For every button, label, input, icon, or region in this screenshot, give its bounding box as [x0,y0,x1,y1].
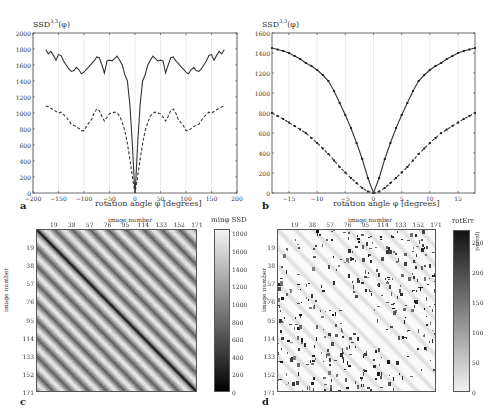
y-tick-label: 133 [264,352,275,359]
colorbar-tick-label: 1000 [232,300,247,307]
x-tick-label: −100 [76,195,92,202]
panel-c-heatmap [36,229,197,392]
x-tick-label: −15 [283,195,296,202]
y-tick-label: 133 [23,352,34,359]
panel-a-plot-area [33,33,237,193]
panel-d-colorbar [453,230,470,392]
y-tick-label: 95 [267,316,275,323]
y-tick-label: 171 [23,389,34,396]
colorbar-tick-label: 1600 [232,248,247,255]
panel-d-colorbar-title: rotErr [452,217,474,225]
panel-c-colorbar [214,229,230,392]
colorbar-tick-label: 1800 [232,230,247,237]
panel-a-xlabel: rotation angle φ [degrees] [95,199,202,208]
colorbar-tick-label: 50 [472,359,480,366]
colorbar-tick-label: 200 [472,269,483,276]
panel-d-letter: d [262,396,269,407]
y-tick-label: 1800 [16,46,31,53]
x-tick-label: 150 [206,195,217,202]
colorbar-tick-label: 100 [472,329,483,336]
x-tick-label: 95 [362,221,370,228]
y-tick-label: 400 [259,150,270,157]
y-tick-label: 200 [259,170,270,177]
colorbar-tick-label: 1400 [232,265,247,272]
colorbar-tick-label: 1200 [232,283,247,290]
y-tick-label: 152 [23,370,34,377]
y-tick-label: 1000 [255,90,270,97]
y-tick-label: 19 [26,244,34,251]
y-tick-label: 1400 [255,50,270,57]
y-tick-label: 152 [264,370,275,377]
x-tick-label: 200 [231,195,242,202]
y-tick-label: 1000 [16,110,31,117]
colorbar-tick-label: 600 [232,336,243,343]
x-tick-label: 152 [413,221,424,228]
x-tick-label: 76 [344,221,352,228]
x-tick-label: −10 [311,195,324,202]
x-tick-label: 57 [326,221,334,228]
panel-c-left-axis-title: image number [2,268,9,312]
y-tick-label: 400 [20,158,31,165]
x-tick-label: 19 [291,221,299,228]
x-tick-label: 171 [430,221,441,228]
y-tick-label: 76 [26,298,34,305]
x-tick-label: 19 [50,221,58,228]
x-tick-label: 133 [155,221,166,228]
panel-b-ylabel: SSD3,3(φ) [262,18,299,29]
y-tick-label: 1600 [255,30,270,37]
y-tick-label: 200 [20,174,31,181]
y-tick-label: 1600 [16,62,31,69]
colorbar-tick-label: 150 [472,299,483,306]
panel-b-xlabel: rotation angle φ [degrees] [333,199,440,208]
colorbar-tick-label: 250 [472,239,483,246]
y-tick-label: 19 [267,244,275,251]
y-tick-label: 76 [267,298,275,305]
panel-b-plot-area [271,33,476,194]
y-tick-label: 1400 [16,78,31,85]
y-tick-label: 600 [20,142,31,149]
x-tick-label: 114 [138,221,149,228]
colorbar-tick-label: 400 [232,353,243,360]
colorbar-tick-label: 0 [472,389,476,396]
y-tick-label: 0 [27,190,31,197]
panel-c-letter: c [20,396,26,407]
x-tick-label: 38 [68,221,76,228]
y-tick-label: 800 [259,110,270,117]
panel-d-left-axis-title: image number [260,268,267,312]
x-tick-label: 133 [395,221,406,228]
x-tick-label: 114 [377,221,388,228]
y-tick-label: 2000 [16,30,31,37]
x-tick-label: 15 [454,195,462,202]
panel-c-colorbar-title: minφ SSD [211,216,247,224]
y-tick-label: 600 [259,130,270,137]
y-tick-label: 0 [266,190,270,197]
x-tick-label: −150 [50,195,66,202]
y-tick-label: 38 [26,262,34,269]
x-tick-label: 171 [191,221,202,228]
x-tick-label: 152 [173,221,184,228]
colorbar-tick-label: 800 [232,318,243,325]
panel-b-letter: b [262,200,269,211]
x-tick-label: 57 [86,221,94,228]
panel-d-heatmap [277,229,436,392]
y-tick-label: 114 [264,334,275,341]
x-tick-label: 95 [122,221,130,228]
panel-a-letter: a [20,200,26,211]
y-tick-label: 57 [267,280,275,287]
colorbar-tick-label: 200 [232,371,243,378]
y-tick-label: 38 [267,262,275,269]
x-tick-label: 38 [309,221,317,228]
y-tick-label: 57 [26,280,34,287]
y-tick-label: 114 [23,334,34,341]
y-tick-label: 171 [264,389,275,396]
colorbar-tick-label: 0 [232,389,236,396]
y-tick-label: 800 [20,126,31,133]
y-tick-label: 1200 [16,94,31,101]
y-tick-label: 95 [26,316,34,323]
x-tick-label: 76 [104,221,112,228]
y-tick-label: 1200 [255,70,270,77]
